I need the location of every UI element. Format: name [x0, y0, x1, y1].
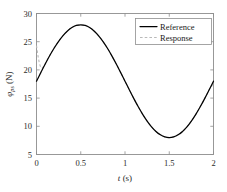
y-axis-unit: (N) [4, 71, 14, 84]
x-tick-label: 1 [123, 158, 127, 168]
x-tick-label: 0 [34, 158, 38, 168]
figure-container: 00.511.52 51015202530 t (s) φps (N) Refe… [0, 0, 227, 192]
y-tick-label: 20 [24, 65, 33, 75]
svg-text:t (s): t (s) [118, 173, 132, 183]
y-tick-label: 15 [24, 93, 33, 103]
x-tick-label: 1.5 [164, 158, 175, 168]
y-tick-label: 30 [24, 9, 33, 19]
x-tick-label: 2 [211, 158, 215, 168]
line-chart: 00.511.52 51015202530 t (s) φps (N) Refe… [0, 0, 227, 192]
y-tick-label: 5 [28, 150, 32, 160]
svg-text:φps (N): φps (N) [4, 71, 15, 96]
legend-label-reference: Reference [160, 22, 195, 32]
y-axis-title: φps (N) [4, 71, 15, 96]
legend-label-response: Response [160, 33, 193, 43]
x-tick-label: 0.5 [75, 158, 86, 168]
y-tick-label: 25 [24, 37, 33, 47]
y-tick-label: 10 [24, 121, 33, 131]
legend: Reference Response [136, 19, 212, 45]
x-axis-unit: (s) [123, 173, 133, 183]
x-axis-title: t (s) [118, 173, 132, 183]
